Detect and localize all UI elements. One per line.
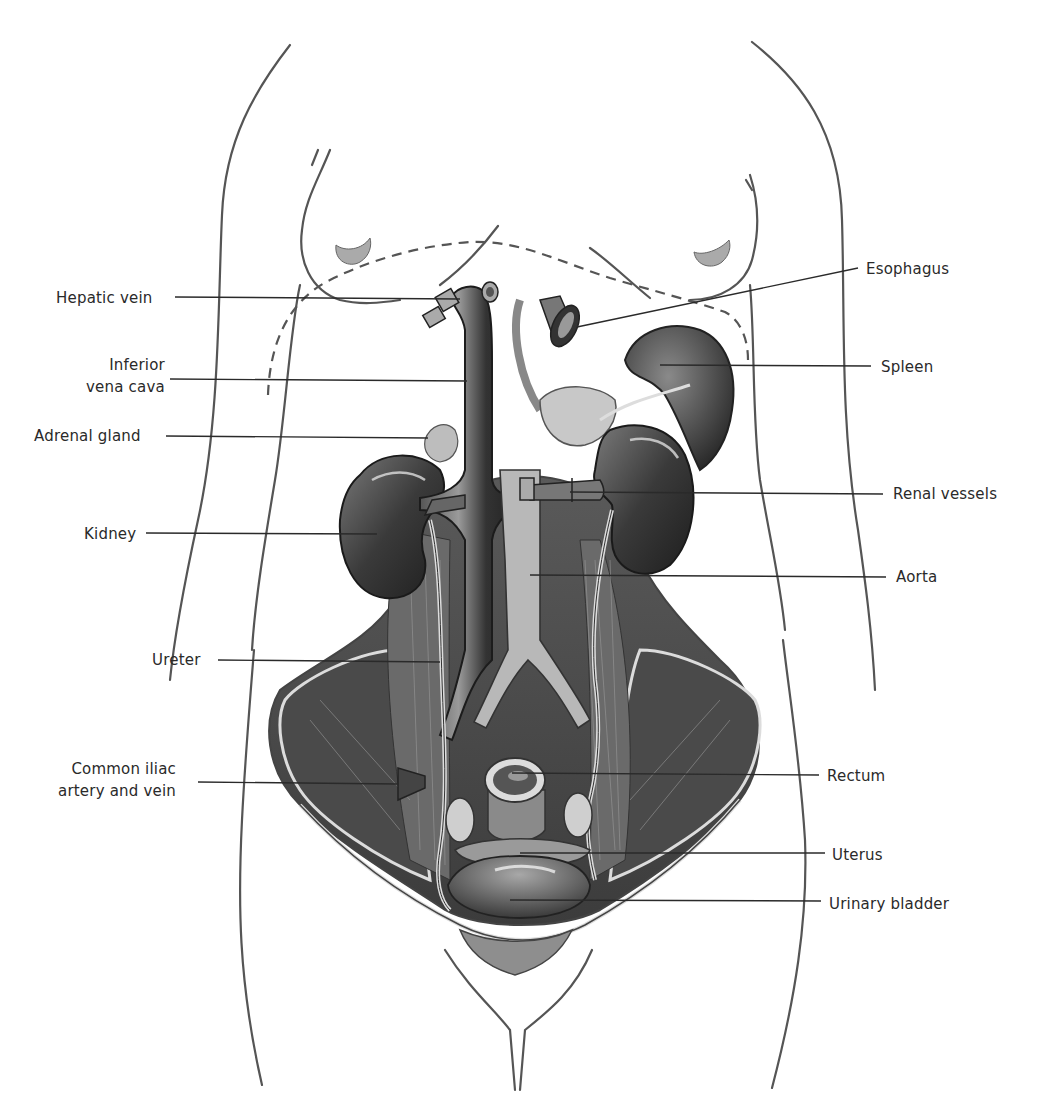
rectum bbox=[485, 758, 545, 841]
left-ovary bbox=[564, 793, 592, 837]
label-hepatic-vein: Hepatic vein bbox=[56, 287, 152, 309]
label-renal-vessels: Renal vessels bbox=[893, 483, 997, 505]
label-adrenal-gland: Adrenal gland bbox=[34, 425, 141, 447]
anatomy-illustration bbox=[0, 0, 1039, 1117]
label-ureter: Ureter bbox=[152, 649, 201, 671]
label-aorta: Aorta bbox=[896, 566, 937, 588]
label-esophagus: Esophagus bbox=[866, 258, 949, 280]
label-common-iliac: Common iliac artery and vein bbox=[58, 758, 176, 802]
right-ovary bbox=[446, 798, 474, 842]
label-rectum: Rectum bbox=[827, 765, 885, 787]
label-spleen: Spleen bbox=[881, 356, 933, 378]
adrenal-gland bbox=[425, 425, 458, 462]
label-urinary-bladder: Urinary bladder bbox=[829, 893, 949, 915]
label-kidney: Kidney bbox=[84, 523, 136, 545]
label-inferior-vena-cava: Inferior vena cava bbox=[86, 354, 165, 398]
label-uterus: Uterus bbox=[832, 844, 883, 866]
